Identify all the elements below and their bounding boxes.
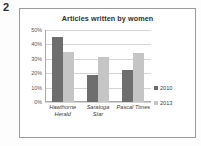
y-axis-tick-labels: 50%40%30%20%10%0% <box>21 30 42 102</box>
legend-swatch-icon <box>154 101 158 105</box>
gridline <box>45 102 151 103</box>
bar-group <box>83 30 113 102</box>
y-axis-tick-label: 0% <box>34 99 42 105</box>
legend-label: 2013 <box>160 100 172 106</box>
legend-item-2013[interactable]: 2013 <box>154 100 194 106</box>
y-axis-tick-label: 40% <box>31 41 42 47</box>
y-axis-tick-label: 20% <box>31 70 42 76</box>
x-axis-label-line: Star <box>80 111 115 118</box>
x-axis-category-labels: HawthorneHeraldSaratogaStarPascal Times <box>45 104 151 126</box>
y-axis-tick-label: 10% <box>31 85 42 91</box>
chart-title: Articles written by women <box>20 14 195 23</box>
chart-legend: 20102013 <box>154 85 194 115</box>
plot-area: 50%40%30%20%10%0% <box>45 30 151 102</box>
bar <box>87 75 98 102</box>
y-axis-tick-label: 30% <box>31 56 42 62</box>
bar-series-container <box>45 30 151 102</box>
x-axis-label-line: Hawthorne <box>45 104 80 111</box>
chart-screenshot: 2 Articles written by women 50%40%30%20%… <box>0 0 201 146</box>
y-axis-tick-label: 50% <box>31 27 42 33</box>
bar-group <box>118 30 148 102</box>
x-axis-label-line: Pascal Times <box>116 104 151 111</box>
item-number: 2 <box>3 1 9 13</box>
legend-swatch-icon <box>154 86 158 90</box>
bar <box>98 57 109 102</box>
bar <box>63 52 74 102</box>
bar-group <box>48 30 78 102</box>
legend-label: 2010 <box>160 85 172 91</box>
legend-item-2010[interactable]: 2010 <box>154 85 194 91</box>
x-axis-category-label: Pascal Times <box>116 104 151 126</box>
x-axis-category-label: HawthorneHerald <box>45 104 80 126</box>
x-axis-category-label: SaratogaStar <box>80 104 115 126</box>
figure-box: Articles written by women 50%40%30%20%10… <box>19 8 196 138</box>
bar <box>52 37 63 102</box>
bar <box>133 53 144 102</box>
x-axis-label-line: Saratoga <box>80 104 115 111</box>
bar <box>122 70 133 102</box>
x-axis-label-line: Herald <box>45 111 80 118</box>
